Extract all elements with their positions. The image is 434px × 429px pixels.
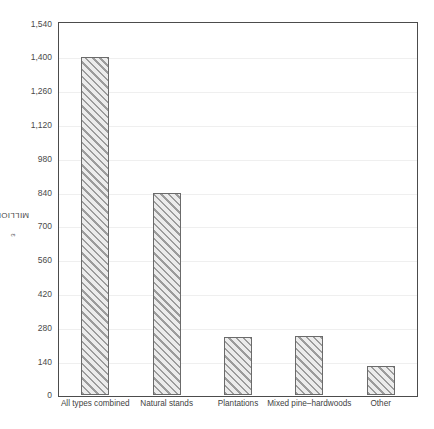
- y-axis-tick-label: 840: [38, 188, 52, 198]
- bar[interactable]: [153, 193, 181, 396]
- bar[interactable]: [295, 336, 323, 395]
- x-axis-tick-label: Other: [370, 399, 390, 408]
- gridline: [59, 126, 417, 127]
- gridline: [59, 227, 417, 228]
- x-axis-tick-label: Plantations: [218, 399, 259, 408]
- y-axis-tick-label: 1,400: [31, 52, 52, 62]
- y-axis-tick-label: 280: [38, 323, 52, 333]
- gridline: [59, 261, 417, 262]
- gridline: [59, 92, 417, 93]
- y-axis-tick-label: 560: [38, 255, 52, 265]
- gridline: [59, 194, 417, 195]
- y-axis-tick-label: 1,120: [31, 120, 52, 130]
- bar-chart: MILLION m3 01402804205607008409801,1201,…: [0, 0, 434, 429]
- x-axis-tick-label: Natural stands: [140, 399, 193, 408]
- y-axis-tick-label: 980: [38, 154, 52, 164]
- y-axis-tick-labels: 01402804205607008409801,1201,2601,4001,5…: [0, 0, 58, 429]
- y-axis-tick-label: 420: [38, 289, 52, 299]
- x-axis-tick-label: Mixed pine–hardwoods: [267, 399, 351, 408]
- gridline: [59, 295, 417, 296]
- y-axis-tick-label: 1,540: [31, 19, 52, 29]
- gridline: [59, 329, 417, 330]
- bar[interactable]: [367, 366, 395, 395]
- bar[interactable]: [224, 337, 252, 395]
- y-axis-tick-label: 1,260: [31, 86, 52, 96]
- gridline: [59, 58, 417, 59]
- x-axis-tick-labels: All types combinedNatural standsPlantati…: [58, 399, 418, 421]
- bar[interactable]: [81, 57, 109, 395]
- x-axis-tick-label: All types combined: [61, 399, 130, 408]
- y-axis-tick-label: 0: [47, 390, 52, 400]
- y-axis-tick-label: 140: [38, 357, 52, 367]
- gridline: [59, 160, 417, 161]
- y-axis-tick-label: 700: [38, 221, 52, 231]
